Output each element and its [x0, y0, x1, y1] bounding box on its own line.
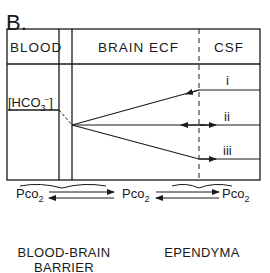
header-csf: CSF	[214, 40, 244, 56]
panel-label: B.	[6, 12, 27, 34]
caption-barrier: BARRIER	[12, 260, 116, 273]
header-brain-ecf: BRAIN ECF	[98, 40, 179, 56]
pathway-i-line	[72, 90, 260, 125]
pathway-label-iii: iii	[223, 144, 232, 158]
caption-ependyma: EPENDYMA	[162, 245, 242, 261]
pco2-csf-label: Pco2	[222, 187, 249, 206]
pathway-label-ii: ii	[224, 110, 230, 124]
bicarbonate-label: [HCO3−]	[8, 93, 53, 115]
caption-blood-brain: BLOOD-BRAIN	[12, 245, 116, 261]
pathway-label-i: i	[226, 74, 229, 88]
pco2-brain-label: Pco2	[122, 187, 149, 206]
pco2-blood-label: Pco2	[16, 187, 43, 206]
header-blood: BLOOD	[10, 40, 62, 56]
